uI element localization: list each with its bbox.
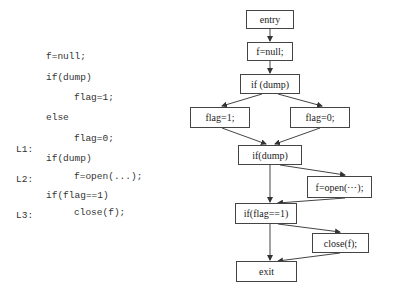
cfg-node-flag0: flag=0; [290,107,350,128]
cfg-node-if-dump-1: if (dump) [240,74,300,94]
cfg-node-entry: entry [246,10,294,29]
cfg-node-exit: exit [236,261,297,282]
cfg-node-if-flag: if(flag==1) [235,203,297,224]
cfg-node-flag1: flag=1; [190,107,250,128]
cfg-node-f-open: f=open(⋯); [307,176,372,198]
cfg-node-f-null: f=null; [247,42,293,61]
cfg-node-if-dump-2: if(dump) [238,145,302,165]
cfg-node-close: close(f); [312,233,369,253]
